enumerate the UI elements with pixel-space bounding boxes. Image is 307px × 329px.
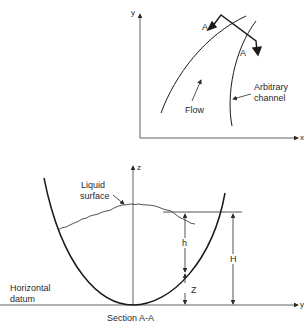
bottom-y-axis-label: y — [300, 300, 304, 310]
dimension-h-label: h — [182, 238, 187, 248]
flow-arrow — [192, 80, 201, 101]
channel-leader — [233, 94, 251, 99]
liquid-surface-label-line2: surface — [80, 191, 110, 201]
channel-section — [44, 178, 225, 305]
flow-label: Flow — [185, 105, 204, 115]
liquid-surface-leader — [113, 195, 124, 204]
dimension-z-label: Z — [191, 285, 197, 295]
top-y-axis-label: y — [131, 8, 135, 18]
dimension-H-label: H — [230, 254, 237, 264]
section-label-a-top: A — [202, 22, 208, 32]
diagram-graphics — [0, 0, 307, 329]
liquid-surface — [58, 204, 195, 230]
liquid-surface-label-line1: Liquid — [81, 180, 105, 190]
channel-flow-diagram: y x A A Flow Arbitrary channel z y Liqui… — [0, 0, 307, 329]
section-caption: Section A-A — [107, 313, 154, 323]
datum-label-line1: Horizontal — [10, 283, 51, 293]
datum-label-line2: datum — [10, 294, 35, 304]
section-label-a-bottom: A — [240, 48, 246, 58]
top-x-axis-label: x — [300, 133, 304, 143]
channel-walls — [161, 16, 256, 126]
channel-label-line1: Arbitrary — [254, 82, 288, 92]
channel-label-line2: channel — [254, 93, 286, 103]
z-axis-label: z — [137, 163, 141, 173]
